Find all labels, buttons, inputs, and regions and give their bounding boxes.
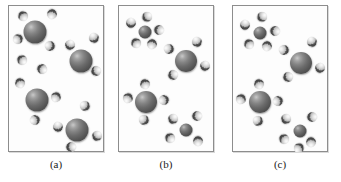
- small-molecule-sphere: [198, 59, 212, 73]
- panel-c: [232, 5, 328, 152]
- small-molecule-sphere: [124, 16, 139, 31]
- small-molecule-sphere: [157, 93, 171, 107]
- small-molecule-sphere: [252, 115, 265, 128]
- panel-b: [118, 5, 214, 152]
- medium-solute-sphere: [180, 124, 193, 137]
- small-molecule-sphere: [49, 90, 62, 103]
- small-molecule-sphere: [271, 94, 285, 108]
- small-molecule-sphere: [88, 32, 101, 45]
- small-molecule-sphere: [190, 109, 205, 124]
- small-molecule-sphere: [141, 11, 152, 22]
- small-molecule-sphere: [243, 38, 255, 50]
- small-molecule-sphere: [138, 114, 151, 127]
- small-molecule-sphere: [280, 113, 292, 125]
- small-molecule-sphere: [162, 42, 176, 56]
- small-molecule-sphere: [306, 36, 319, 49]
- panel-c-caption: (c): [232, 158, 328, 170]
- large-solute-sphere: [135, 91, 157, 113]
- small-molecule-sphere: [238, 18, 253, 33]
- small-molecule-sphere: [89, 64, 102, 77]
- small-molecule-sphere: [121, 91, 134, 104]
- panel-c-scene: [232, 5, 328, 152]
- small-molecule-sphere: [268, 24, 283, 39]
- small-molecule-sphere: [281, 70, 294, 83]
- small-molecule-sphere: [28, 113, 42, 127]
- medium-solute-sphere: [139, 26, 152, 39]
- small-molecule-sphere: [130, 37, 142, 49]
- small-molecule-sphere: [277, 43, 291, 57]
- large-solute-sphere: [66, 119, 89, 142]
- small-molecule-sphere: [35, 62, 49, 76]
- molecular-figure: (a) (b) (c): [0, 0, 341, 182]
- small-molecule-sphere: [256, 11, 267, 22]
- small-molecule-sphere: [152, 23, 167, 38]
- small-molecule-sphere: [51, 120, 65, 134]
- small-molecule-sphere: [13, 76, 27, 90]
- small-molecule-sphere: [79, 100, 92, 113]
- small-molecule-sphere: [167, 113, 179, 125]
- small-molecule-sphere: [313, 61, 327, 75]
- small-molecule-sphere: [260, 39, 274, 53]
- small-molecule-sphere: [138, 77, 152, 91]
- panel-a-scene: [8, 5, 104, 152]
- large-solute-sphere: [175, 50, 197, 72]
- small-molecule-sphere: [91, 130, 103, 142]
- medium-solute-sphere: [254, 27, 267, 40]
- large-solute-sphere: [70, 50, 93, 73]
- large-solute-sphere: [290, 52, 312, 74]
- small-molecule-sphere: [304, 135, 319, 150]
- small-molecule-sphere: [234, 92, 247, 105]
- small-molecule-sphere: [252, 77, 266, 91]
- panel-a: [8, 5, 104, 152]
- small-molecule-sphere: [294, 143, 305, 152]
- small-molecule-sphere: [191, 36, 204, 49]
- small-molecule-sphere: [43, 39, 57, 53]
- small-molecule-sphere: [45, 7, 59, 21]
- small-molecule-sphere: [305, 110, 320, 125]
- large-solute-sphere: [26, 89, 49, 112]
- small-molecule-sphere: [64, 140, 79, 152]
- panel-b-caption: (b): [118, 158, 214, 170]
- small-molecule-sphere: [16, 54, 28, 66]
- small-molecule-sphere: [145, 37, 159, 51]
- panel-a-caption: (a): [8, 158, 104, 170]
- panel-b-scene: [118, 5, 214, 152]
- small-molecule-sphere: [278, 133, 290, 145]
- small-molecule-sphere: [12, 33, 24, 45]
- medium-solute-sphere: [294, 125, 307, 138]
- small-molecule-sphere: [164, 132, 176, 144]
- large-solute-sphere: [249, 91, 271, 113]
- small-molecule-sphere: [166, 68, 179, 81]
- small-molecule-sphere: [191, 134, 206, 149]
- small-molecule-sphere: [17, 10, 29, 22]
- large-solute-sphere: [24, 21, 47, 44]
